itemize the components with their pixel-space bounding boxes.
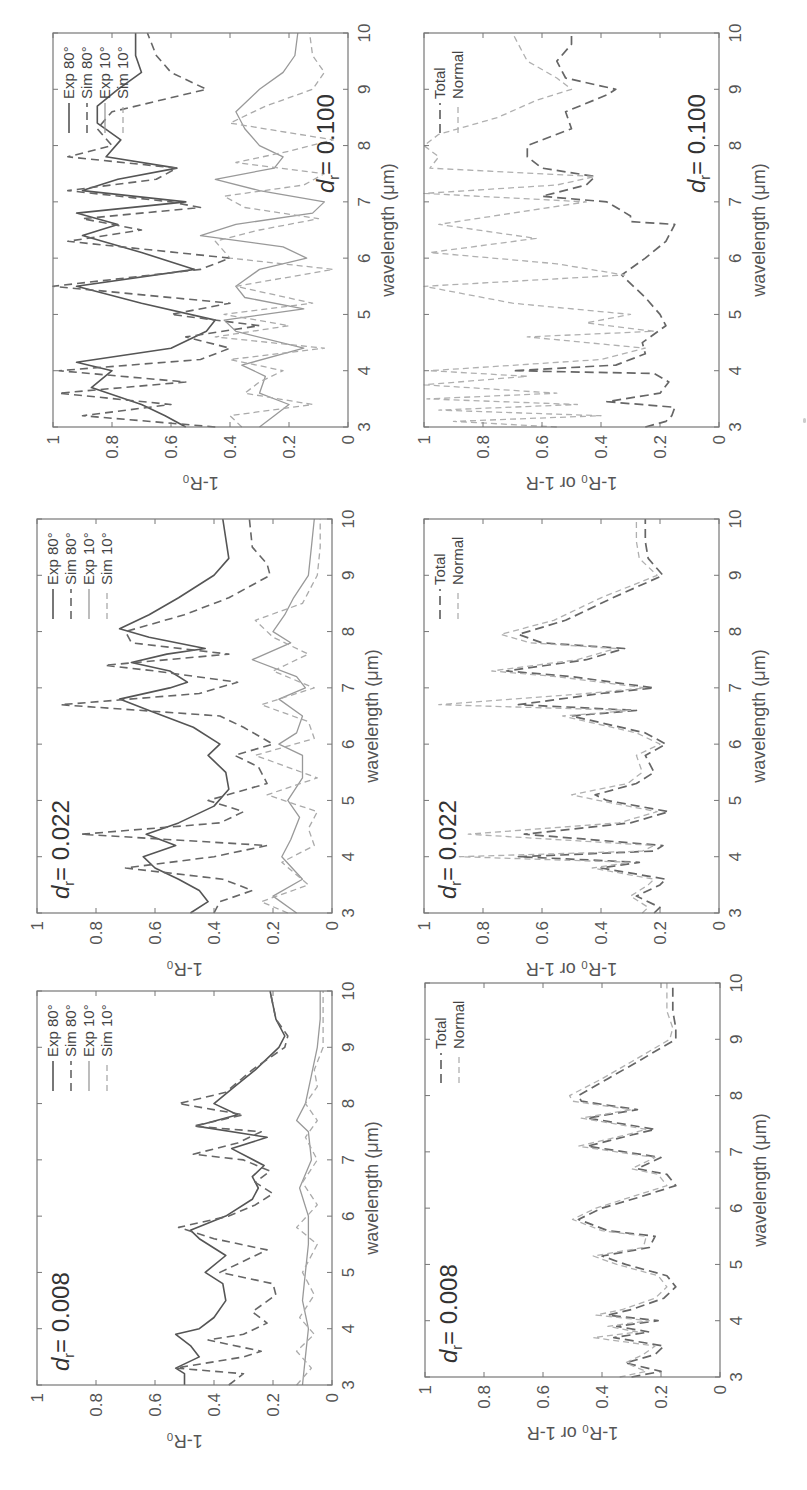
series-line-sim-80-	[176, 991, 288, 1385]
x-tick-label: 8	[727, 1091, 746, 1100]
x-tick-label: 8	[726, 141, 745, 150]
x-tick-label: 10	[339, 510, 358, 529]
x-tick-label: 6	[339, 739, 358, 748]
figure-canvas: 34567891000.20.40.60.81wavelength (μm)1-…	[0, 0, 807, 1490]
y-tick-label: 0.4	[592, 435, 611, 459]
y-tick-label: 0.6	[146, 1393, 165, 1417]
y-tick-label: 0.8	[87, 921, 106, 945]
y-tick-label: 0.4	[592, 921, 611, 945]
series-line-normal	[439, 519, 660, 913]
x-axis-title: wavelength (μm)	[749, 163, 769, 297]
legend-label: Sim 10°	[98, 532, 115, 585]
legend-label: Normal	[450, 1001, 467, 1049]
y-axis-title: 1-R₀	[182, 473, 218, 493]
plot-area: 34567891000.20.40.60.81wavelength (μm)1-…	[425, 983, 720, 1377]
y-tick-label: 0.8	[475, 1385, 494, 1409]
legend: Exp 80°Sim 80°Exp 10°Sim 10°	[60, 46, 131, 133]
legend-label: Normal	[449, 51, 466, 99]
y-tick-label: 1	[415, 435, 434, 444]
x-tick-label: 5	[339, 796, 358, 805]
y-tick-label: 0	[339, 435, 358, 444]
x-tick-label: 6	[339, 1211, 358, 1220]
y-tick-label: 0.2	[651, 435, 670, 459]
x-tick-label: 4	[355, 366, 374, 375]
x-tick-label: 5	[355, 310, 374, 319]
series-line-sim-10-	[297, 991, 324, 1385]
series-line-exp-80-	[120, 519, 229, 913]
y-tick-label: 0	[323, 1393, 342, 1402]
x-tick-label: 4	[339, 1324, 358, 1333]
legend: TotalNormal	[431, 51, 466, 133]
x-tick-label: 9	[727, 1035, 746, 1044]
x-tick-label: 10	[726, 510, 745, 529]
legend-label: Exp 80°	[60, 46, 77, 99]
x-tick-label: 7	[726, 683, 745, 692]
x-tick-label: 6	[726, 253, 745, 262]
x-tick-label: 8	[355, 141, 374, 150]
panel-bottom-right: 34567891000.20.40.60.81wavelength (μm)1-…	[424, 33, 723, 427]
y-tick-label: 0.4	[593, 1385, 612, 1409]
legend-label: Exp 10°	[80, 532, 97, 585]
x-tick-label: 3	[339, 1380, 358, 1389]
x-tick-label: 8	[339, 627, 358, 636]
x-tick-label: 8	[339, 1099, 358, 1108]
dr-annotation: dr= 0.022	[434, 800, 464, 899]
dr-annotation: dr= 0.008	[47, 1272, 77, 1371]
plot-area: 34567891000.20.40.60.81wavelength (μm)1-…	[37, 991, 332, 1385]
panel-top-left: 34567891000.20.40.60.81wavelength (μm)1-…	[37, 991, 336, 1385]
series-line-total	[513, 33, 675, 427]
plot-area: 34567891000.20.40.60.81wavelength (μm)1-…	[53, 33, 348, 427]
x-tick-label: 3	[726, 422, 745, 431]
x-axis-title: wavelength (μm)	[362, 1121, 382, 1255]
series-line-sim-10-	[215, 33, 333, 427]
dr-annotation: dr= 0.022	[47, 800, 77, 899]
y-axis-title: 1-R₀	[166, 1431, 202, 1451]
legend: TotalNormal	[431, 537, 466, 619]
x-tick-label: 4	[339, 852, 358, 861]
x-tick-label: 9	[726, 571, 745, 580]
panel-bottom-left: 34567891000.20.40.60.81wavelength (μm)1-…	[425, 983, 724, 1377]
legend-label: Sim 10°	[98, 1004, 115, 1057]
y-tick-label: 0.8	[87, 1393, 106, 1417]
y-tick-label: 1	[28, 1393, 47, 1402]
x-tick-label: 9	[355, 85, 374, 94]
x-tick-label: 9	[339, 571, 358, 580]
y-tick-label: 1	[28, 921, 47, 930]
legend-label: Exp 80°	[44, 532, 61, 585]
x-tick-label: 3	[355, 422, 374, 431]
y-tick-label: 0.8	[474, 921, 493, 945]
y-tick-label: 1	[416, 1385, 435, 1394]
legend-label: Total	[431, 553, 448, 585]
x-axis-title: wavelength (μm)	[749, 649, 769, 783]
x-tick-label: 5	[727, 1260, 746, 1269]
y-tick-label: 0	[710, 435, 729, 444]
y-tick-label: 0.6	[533, 435, 552, 459]
x-tick-label: 6	[355, 253, 374, 262]
legend-label: Total	[432, 1017, 449, 1049]
x-tick-label: 9	[339, 1043, 358, 1052]
plot-area: 34567891000.20.40.60.81wavelength (μm)1-…	[424, 519, 719, 913]
series-line-exp-10-	[297, 991, 321, 1385]
x-tick-label: 4	[726, 852, 745, 861]
dr-annotation: dr= 0.100	[683, 94, 713, 193]
y-axis-title: 1-R₀ or 1-R	[527, 1423, 619, 1443]
y-tick-label: 0.4	[205, 921, 224, 945]
series-line-exp-80-	[176, 991, 285, 1385]
x-tick-label: 7	[727, 1147, 746, 1156]
legend-label: Sim 80°	[78, 46, 95, 99]
legend-label: Sim 80°	[62, 532, 79, 585]
panel-top-middle: 34567891000.20.40.60.81wavelength (μm)1-…	[37, 519, 336, 913]
x-tick-label: 10	[355, 24, 374, 43]
y-axis-title: 1-R₀ or 1-R	[526, 473, 618, 493]
x-tick-label: 10	[726, 24, 745, 43]
plot-area: 34567891000.20.40.60.81wavelength (μm)1-…	[37, 519, 332, 913]
y-axis-title: 1-R₀ or 1-R	[526, 959, 618, 979]
x-tick-label: 9	[726, 85, 745, 94]
y-tick-label: 0.2	[264, 921, 283, 945]
x-tick-label: 7	[339, 683, 358, 692]
x-tick-label: 5	[726, 796, 745, 805]
x-tick-label: 4	[727, 1316, 746, 1325]
legend-label: Normal	[449, 537, 466, 585]
x-tick-label: 7	[726, 197, 745, 206]
x-tick-label: 8	[726, 627, 745, 636]
